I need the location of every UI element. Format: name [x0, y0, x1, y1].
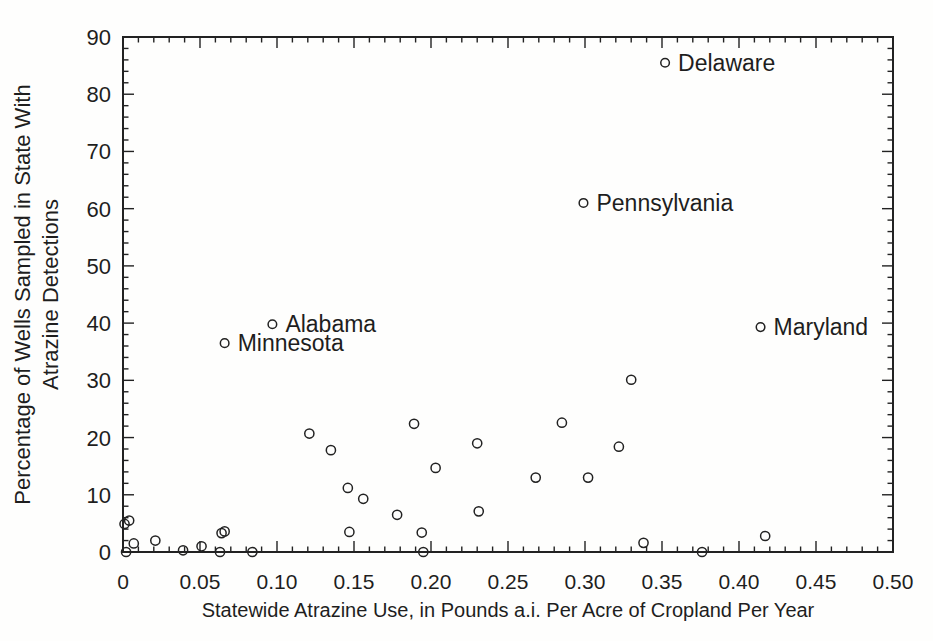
x-tick-label: 0.50 [873, 570, 914, 593]
x-tick-label: 0.30 [565, 570, 606, 593]
data-point [305, 429, 314, 438]
y-tick-label: 40 [87, 311, 111, 336]
data-point [557, 418, 566, 427]
x-tick-label: 0.05 [180, 570, 221, 593]
data-point [761, 531, 770, 540]
data-point [614, 442, 623, 451]
state-label-maryland: Maryland [774, 314, 869, 340]
x-tick-label: 0.40 [719, 570, 760, 593]
y-tick-label: 20 [87, 426, 111, 451]
x-tick-label: 0.35 [642, 570, 683, 593]
y-tick-label: 0 [99, 540, 111, 565]
y-tick-label: 90 [87, 25, 111, 50]
y-axis-title-line-2: Atrazine Detections [38, 199, 63, 390]
x-tick-label: 0.45 [796, 570, 837, 593]
data-point [151, 536, 160, 545]
data-point [583, 473, 592, 482]
x-axis-title: Statewide Atrazine Use, in Pounds a.i. P… [202, 599, 815, 621]
plot-frame [123, 37, 893, 552]
x-tick-label: 0.25 [488, 570, 529, 593]
y-tick-label: 10 [87, 483, 111, 508]
data-point [220, 527, 229, 536]
data-point [129, 539, 138, 548]
data-point-pennsylvania [579, 199, 588, 208]
state-label-delaware: Delaware [678, 50, 775, 76]
x-tick-label: 0.15 [334, 570, 375, 593]
state-label-minnesota: Minnesota [238, 330, 344, 356]
data-point [474, 507, 483, 516]
data-point [639, 538, 648, 547]
data-point-minnesota [220, 339, 229, 348]
data-point [417, 528, 426, 537]
data-point [393, 510, 402, 519]
data-point-maryland [756, 323, 765, 332]
y-tick-label: 60 [87, 197, 111, 222]
data-point [627, 375, 636, 384]
data-point [359, 494, 368, 503]
x-tick-label: 0.20 [411, 570, 452, 593]
data-point-alabama [268, 320, 277, 329]
x-tick-label: 0.10 [257, 570, 298, 593]
y-tick-label: 70 [87, 139, 111, 164]
data-point-delaware [661, 58, 670, 67]
data-point [345, 527, 354, 536]
data-point [178, 546, 187, 555]
scatter-plot-figure: 00.050.100.150.200.250.300.350.400.450.5… [0, 0, 933, 641]
data-point [409, 419, 418, 428]
data-point [431, 463, 440, 472]
y-axis-title-line-1: Percentage of Wells Sampled in State Wit… [10, 84, 35, 504]
y-tick-label: 80 [87, 82, 111, 107]
data-point [473, 439, 482, 448]
state-label-pennsylvania: Pennsylvania [596, 190, 733, 216]
data-point [326, 446, 335, 455]
data-point [197, 542, 206, 551]
data-point [531, 473, 540, 482]
data-point [343, 483, 352, 492]
x-tick-label: 0 [117, 570, 129, 593]
atrazine-scatter-chart: 00.050.100.150.200.250.300.350.400.450.5… [0, 0, 933, 641]
y-tick-label: 30 [87, 368, 111, 393]
y-tick-label: 50 [87, 254, 111, 279]
